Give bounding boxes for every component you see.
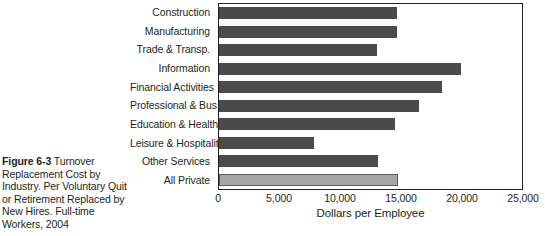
category-label: Other Services	[130, 156, 214, 167]
x-tick-label: 10,000	[324, 192, 356, 204]
bar	[219, 137, 314, 149]
bar-row	[219, 115, 522, 134]
category-label: Education & Health	[130, 119, 214, 130]
bar	[219, 81, 442, 93]
x-tick-label: 20,000	[446, 192, 478, 204]
bar-row	[219, 134, 522, 153]
figure-number: Figure 6-3	[2, 155, 51, 167]
bars-layer	[219, 4, 522, 189]
category-label: Trade & Transp.	[130, 44, 214, 55]
category-label: Information	[130, 63, 214, 74]
bar-row	[219, 23, 522, 42]
bar-row	[219, 41, 522, 60]
bar-row	[219, 60, 522, 79]
category-label: Financial Activities	[130, 82, 214, 93]
bar	[219, 63, 461, 75]
x-tick-label: 5,000	[266, 192, 292, 204]
category-label: All Private	[130, 175, 214, 186]
bar-row	[219, 97, 522, 116]
category-label: Manufacturing	[130, 26, 214, 37]
figure-caption: Figure 6-3 Turnover Replacement Cost by …	[2, 155, 130, 231]
category-axis: ConstructionManufacturingTrade & Transp.…	[130, 3, 214, 190]
bar-row	[219, 78, 522, 97]
bar-row	[219, 152, 522, 171]
bar	[219, 7, 397, 19]
bar-row	[219, 4, 522, 23]
bar	[219, 26, 397, 38]
bar	[219, 155, 378, 167]
bar	[219, 44, 377, 56]
category-label: Construction	[130, 7, 214, 18]
bar	[219, 100, 419, 112]
x-tick-label: 0	[215, 192, 221, 204]
x-tick-label: 15,000	[385, 192, 417, 204]
category-label: Professional & Bus.	[130, 100, 214, 111]
bar	[219, 174, 398, 186]
bar-row	[219, 171, 522, 190]
x-axis-title: Dollars per Employee	[218, 207, 523, 219]
bar	[219, 118, 395, 130]
category-label: Leisure & Hospitality	[130, 138, 214, 149]
x-tick-label: 25,000	[507, 192, 539, 204]
plot-area	[218, 3, 523, 190]
